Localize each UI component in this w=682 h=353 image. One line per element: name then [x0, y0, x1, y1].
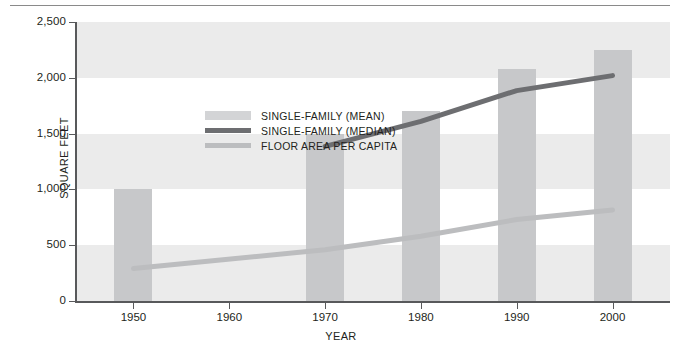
legend-swatch-mark [205, 143, 251, 148]
y-tick-label-500: 500 [14, 238, 66, 250]
y-tick-label-2500: 2,500 [14, 15, 66, 27]
line-series-layer [76, 22, 670, 301]
x-tick-label-1970: 1970 [295, 311, 355, 323]
legend-label-0: SINGLE-FAMILY (MEAN) [261, 110, 385, 122]
x-tick-1970 [325, 303, 326, 309]
x-axis-line [75, 301, 670, 303]
y-tick-label-0: 0 [14, 294, 66, 306]
x-tick-label-2000: 2000 [583, 311, 643, 323]
x-tick-label-1980: 1980 [391, 311, 451, 323]
legend-swatch-1 [205, 128, 251, 133]
legend-swatch-mark [205, 111, 251, 120]
y-axis-line [75, 22, 77, 302]
x-tick-label-1960: 1960 [199, 311, 259, 323]
legend-item-1: SINGLE-FAMILY (MEDIAN) [205, 123, 397, 138]
chart-legend: SINGLE-FAMILY (MEAN)SINGLE-FAMILY (MEDIA… [205, 108, 397, 153]
legend-swatch-mark [205, 128, 251, 133]
floor-area-per-capita-line [134, 210, 613, 269]
y-axis-title: SQUARE FEET [58, 88, 70, 228]
x-tick-label-1950: 1950 [103, 311, 163, 323]
legend-label-1: SINGLE-FAMILY (MEDIAN) [261, 125, 396, 137]
x-axis-title: YEAR [0, 330, 682, 342]
y-tick-label-2000: 2,000 [14, 71, 66, 83]
chart-plot-area: SINGLE-FAMILY (MEAN)SINGLE-FAMILY (MEDIA… [76, 22, 670, 301]
y-tick-2000 [69, 78, 76, 79]
legend-label-2: FLOOR AREA PER CAPITA [261, 140, 397, 152]
legend-swatch-2 [205, 143, 251, 148]
top-divider-rule [10, 5, 670, 6]
legend-item-2: FLOOR AREA PER CAPITA [205, 138, 397, 153]
legend-item-0: SINGLE-FAMILY (MEAN) [205, 108, 397, 123]
x-tick-2000 [613, 303, 614, 309]
x-tick-1990 [517, 303, 518, 309]
y-tick-0 [69, 301, 76, 302]
x-tick-1980 [421, 303, 422, 309]
x-tick-1950 [133, 303, 134, 309]
y-tick-1000 [69, 189, 76, 190]
y-tick-1500 [69, 134, 76, 135]
y-tick-500 [69, 245, 76, 246]
x-tick-1960 [229, 303, 230, 309]
x-tick-label-1990: 1990 [487, 311, 547, 323]
legend-swatch-0 [205, 111, 251, 120]
y-tick-2500 [69, 22, 76, 23]
